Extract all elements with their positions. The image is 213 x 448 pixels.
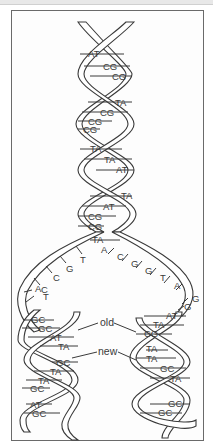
fork-base: G <box>184 301 191 312</box>
bp-label: CG <box>83 124 97 135</box>
bp-label: TA <box>170 373 182 384</box>
old-strand-label: old <box>100 316 114 328</box>
new-strand-label: new <box>98 345 118 357</box>
fork-base: A <box>101 244 108 255</box>
bp-label: GC <box>32 408 46 419</box>
bp-label: AT <box>166 310 178 321</box>
bp-label: CG <box>88 221 102 232</box>
fork-base: G <box>192 293 199 304</box>
fork-base: T <box>160 272 166 283</box>
bp-label: TA <box>121 190 133 201</box>
bp-label: GC <box>30 383 44 394</box>
bp-label: TA <box>90 143 102 154</box>
fork-base: C <box>117 251 124 262</box>
fork-base: T <box>43 291 49 302</box>
fork-right-strand: A C G G T A G G <box>101 232 199 316</box>
bp-label: TA <box>104 154 116 165</box>
fork-base: G <box>131 258 138 269</box>
fork-base: T <box>80 254 86 265</box>
dna-replication-diagram: AT CG CG TA CG CG CG TA TA AT TA AT CG C… <box>0 0 213 448</box>
bp-label: AT <box>103 201 115 212</box>
bp-label: TA <box>50 366 62 377</box>
bp-label: AT <box>116 164 128 175</box>
bp-label: TA <box>146 353 158 364</box>
bp-label: TA <box>58 341 70 352</box>
left-daughter-helix: GC GC AT TA GC TA TA GC AT GC <box>18 310 80 440</box>
bp-label: CG <box>144 328 158 339</box>
fork-base: A <box>174 280 181 291</box>
fork-base: G <box>145 265 152 276</box>
bp-label: GC <box>158 407 172 418</box>
fork-base: G <box>66 263 73 274</box>
right-daughter-helix: AT TA CG TA TA GC TA GC GC <box>130 310 196 438</box>
fork-base: A <box>35 283 42 294</box>
strand-callouts: old new <box>72 316 136 360</box>
fork-base: C <box>53 272 60 283</box>
bp-label: TA <box>115 97 127 108</box>
bp-label: CG <box>112 71 126 82</box>
bp-label: AT <box>88 48 100 59</box>
